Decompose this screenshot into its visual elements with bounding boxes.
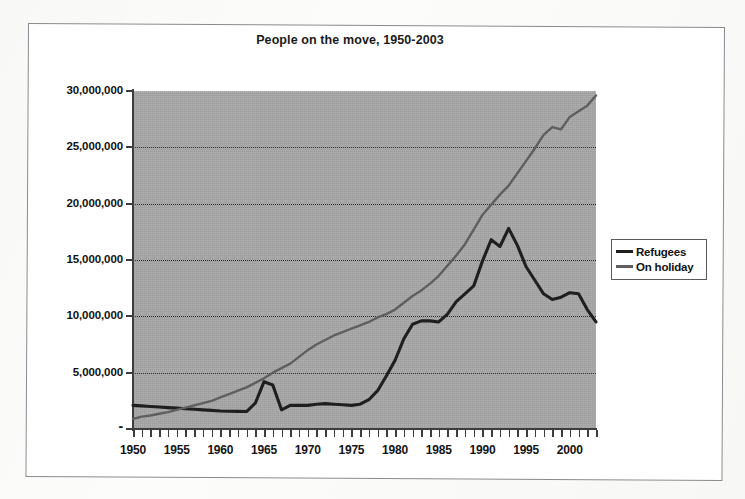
x-axis-tick [168,430,170,437]
x-axis-label: 1965 [239,443,289,457]
x-axis-tick [185,430,187,437]
x-axis-tick [561,430,563,437]
x-axis-tick [552,430,554,437]
y-axis-label: 15,000,000 [13,253,123,265]
series-line-refugees [133,228,596,411]
legend-line-swatch [616,265,633,268]
x-axis-tick [465,430,467,437]
x-axis-label: 1950 [108,443,158,457]
x-axis-tick [421,430,423,437]
x-axis-label: 1975 [326,443,376,457]
y-axis-tick [126,428,133,430]
x-axis-tick [579,430,581,437]
x-axis-tick [290,430,292,437]
x-axis-label: 1990 [457,443,507,457]
x-axis-tick [316,430,318,437]
y-axis-label: 20,000,000 [13,197,123,209]
y-axis-tick [126,259,133,261]
x-axis-tick [378,430,380,437]
x-axis-label: 1955 [152,443,202,457]
x-axis-label: 1980 [370,443,420,457]
y-axis-tick [126,90,133,92]
x-axis-tick [325,430,327,437]
x-axis-tick [351,430,353,437]
x-axis-tick [570,430,572,437]
x-axis-tick [194,430,196,437]
y-axis-labels: 30,000,00025,000,00020,000,00015,000,000… [10,0,123,499]
y-axis-label: 25,000,000 [13,140,123,152]
y-axis-tick [126,315,133,317]
x-axis-tick [535,430,537,437]
x-axis-tick [177,430,179,437]
x-axis-tick [220,430,222,437]
y-axis-label: - [13,418,123,434]
x-axis-tick [273,430,275,437]
x-axis-tick [159,430,161,437]
y-axis-tick [126,203,133,205]
y-axis-label: 10,000,000 [13,309,123,321]
x-axis-tick [404,430,406,437]
x-axis-tick [482,430,484,437]
x-axis-label: 2000 [545,443,595,457]
x-axis-tick [430,430,432,437]
y-axis-label: 5,000,000 [13,366,123,378]
x-axis-label: 1960 [195,443,245,457]
legend-item-label: On holiday [636,261,693,273]
y-axis-label: 30,000,000 [13,84,123,96]
x-axis-tick [544,430,546,437]
x-axis-tick [142,430,144,437]
x-axis-tick [500,430,502,437]
x-axis-tick [526,430,528,437]
x-axis-tick [247,430,249,437]
x-axis-tick [447,430,449,437]
x-axis-tick [587,430,589,437]
chart-screenshot: People on the move, 1950-2003 30,000,000… [0,0,745,499]
y-axis-tick [126,146,133,148]
x-axis-tick [369,430,371,437]
x-axis-tick [596,430,598,437]
x-axis-tick [255,430,257,437]
x-axis-tick [334,430,336,437]
x-axis-tick [474,430,476,437]
x-axis-tick [282,430,284,437]
x-axis-label: 1970 [283,443,333,457]
x-axis-tick [133,430,135,437]
legend-item-label: Refugees [636,246,686,258]
legend-item[interactable]: On holiday [616,259,701,274]
x-axis-tick [203,430,205,437]
x-axis-tick [238,430,240,437]
chart-content: People on the move, 1950-2003 30,000,000… [0,0,745,499]
x-axis-tick [509,430,511,437]
series-line-on-holiday [133,96,596,419]
x-axis-tick [491,430,493,437]
x-axis-tick [264,430,266,437]
x-axis-tick [229,430,231,437]
x-axis-tick [386,430,388,437]
legend-line-swatch [616,250,633,253]
legend-item[interactable]: Refugees [616,244,701,259]
x-axis-tick [150,430,152,437]
chart-title: People on the move, 1950-2003 [140,33,560,47]
x-axis-tick [212,430,214,437]
series-lines [133,91,596,429]
legend: RefugeesOn holiday [611,239,707,280]
x-axis-tick [395,430,397,437]
x-axis-tick [299,430,301,437]
x-axis-tick [360,430,362,437]
x-axis-tick [308,430,310,437]
x-axis-label: 1995 [501,443,551,457]
x-axis-tick [517,430,519,437]
y-axis-tick [126,372,133,374]
x-axis-tick [413,430,415,437]
x-axis-tick [456,430,458,437]
x-axis-tick [439,430,441,437]
x-axis-ticks [133,430,596,437]
x-axis-label: 1985 [414,443,464,457]
x-axis-labels: 1950195519601965197019751980198519901995… [0,443,745,463]
x-axis-tick [343,430,345,437]
